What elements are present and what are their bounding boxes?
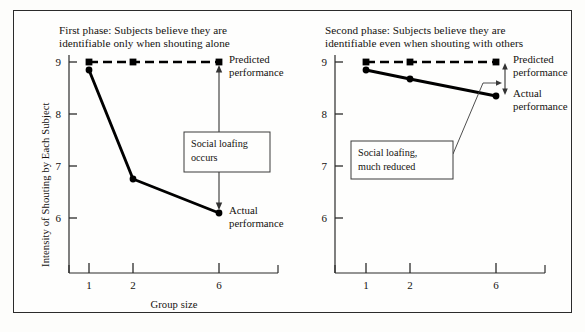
- series-actual-line-right: [366, 70, 496, 96]
- y-tick-label-6-left: 6: [56, 212, 62, 224]
- series-predicted-marker-1-left: [86, 59, 93, 66]
- loafing-arrowhead-up-left: [216, 65, 222, 73]
- social-loafing-box-line2-left: occurs: [191, 152, 218, 163]
- figure-canvas: First phase: Subjects believe they areid…: [0, 0, 585, 332]
- social-loafing-box-line1-right: Social loafing,: [358, 147, 417, 158]
- series-actual-marker-6-right: [493, 93, 500, 100]
- predicted-performance-label-line2-left: performance: [229, 66, 284, 78]
- series-predicted-marker-6-left: [216, 59, 223, 66]
- loafing-gap-arrowhead-down-right: [502, 89, 508, 96]
- series-actual-marker-1-left: [86, 67, 93, 74]
- x-tick-label-1-left: 1: [86, 279, 92, 291]
- y-tick-label-9-right: 9: [322, 56, 328, 68]
- plot-area-right: 9 8 7 6 1 2 6: [293, 11, 572, 314]
- figure-border: First phase: Subjects believe they areid…: [13, 10, 572, 313]
- panel-first-phase: First phase: Subjects believe they areid…: [14, 11, 293, 314]
- x-tick-label-6-right: 6: [493, 279, 499, 291]
- y-tick-label-7-right: 7: [322, 160, 328, 172]
- series-predicted-marker-6-right: [493, 59, 500, 66]
- y-tick-label-7-left: 7: [56, 160, 62, 172]
- series-actual-marker-2-left: [130, 176, 137, 183]
- series-actual-marker-1-right: [363, 67, 370, 74]
- y-tick-label-8-right: 8: [322, 108, 328, 120]
- y-tick-label-6-right: 6: [322, 212, 328, 224]
- predicted-performance-label-line1-left: Predicted: [229, 53, 270, 65]
- loafing-leader-line-right: [453, 83, 483, 154]
- x-tick-label-2-left: 2: [130, 279, 136, 291]
- social-loafing-box-line2-right: much reduced: [358, 161, 415, 172]
- actual-performance-label-line2-right: performance: [513, 100, 568, 112]
- series-actual-marker-6-left: [216, 210, 223, 217]
- loafing-arrowhead-down-left: [216, 203, 222, 211]
- y-tick-label-8-left: 8: [56, 108, 62, 120]
- actual-performance-label-line1-right: Actual: [513, 87, 542, 99]
- predicted-performance-label-line2-right: performance: [513, 66, 568, 78]
- panel-second-phase: Second phase: Subjects believe they arei…: [293, 11, 572, 314]
- x-tick-label-2-right: 2: [407, 279, 413, 291]
- y-tick-label-9-left: 9: [56, 56, 62, 68]
- plot-area-left: 9 8 7 6 1 2 6: [14, 11, 293, 314]
- loafing-gap-arrowhead-up-right: [502, 63, 508, 70]
- series-predicted-marker-2-right: [407, 59, 414, 66]
- social-loafing-box-line1-left: Social loafing: [191, 138, 248, 149]
- x-tick-label-1-right: 1: [363, 279, 369, 291]
- actual-performance-label-line1-left: Actual: [229, 204, 258, 216]
- loafing-leader-arrowhead-right: [496, 80, 502, 86]
- x-tick-label-6-left: 6: [216, 279, 222, 291]
- series-predicted-marker-1-right: [363, 59, 370, 66]
- series-predicted-marker-2-left: [130, 59, 137, 66]
- actual-performance-label-line2-left: performance: [229, 217, 284, 229]
- predicted-performance-label-line1-right: Predicted: [513, 53, 554, 65]
- series-actual-marker-2-right: [407, 76, 414, 83]
